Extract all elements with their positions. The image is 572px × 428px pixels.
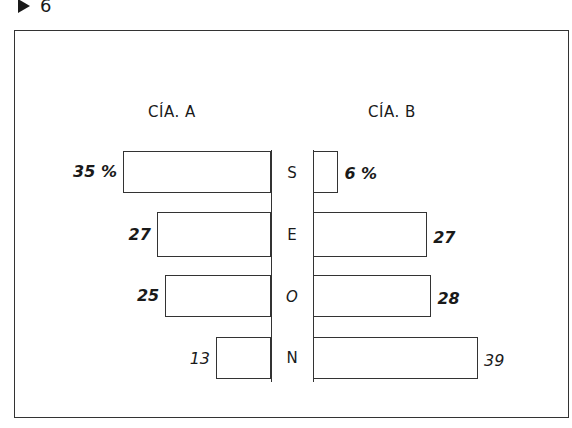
axis-company-a [271, 150, 272, 382]
value-a-s: 35 % [73, 162, 117, 181]
bar-b-s [313, 151, 338, 193]
value-b-s: 6 % [344, 164, 377, 183]
figure-marker: 6 [18, 0, 51, 17]
bar-a-o [165, 275, 271, 317]
bar-b-o [313, 275, 431, 317]
figure-number: 6 [40, 0, 51, 16]
category-o: O [282, 288, 302, 306]
series-header-company-a: CÍA. A [148, 103, 196, 121]
value-b-n: 39 [484, 351, 504, 370]
series-header-company-b: CÍA. B [368, 103, 416, 121]
category-e: E [282, 226, 302, 244]
category-s: S [282, 164, 302, 182]
category-n: N [282, 349, 302, 367]
bar-a-s [123, 151, 271, 193]
value-b-o: 28 [437, 289, 459, 308]
bar-a-e [157, 212, 271, 257]
bar-b-n [313, 337, 478, 379]
value-a-e: 27 [129, 225, 151, 244]
bar-a-n [216, 337, 271, 379]
value-b-e: 27 [433, 228, 455, 247]
bar-b-e [313, 212, 427, 257]
value-a-n: 13 [190, 349, 210, 368]
value-a-o: 25 [137, 286, 159, 305]
triangle-marker-icon [18, 0, 30, 13]
